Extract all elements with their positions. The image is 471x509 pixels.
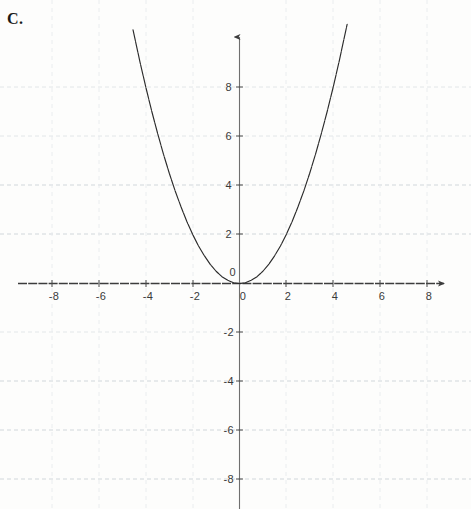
y-tick-label: -2 (224, 326, 234, 338)
x-tick-label: -2 (190, 290, 200, 302)
y-tick-label: -4 (224, 375, 234, 387)
y-tick-label: 4 (226, 179, 232, 191)
parabola-graph (0, 0, 471, 509)
x-tick-label: 4 (332, 290, 338, 302)
y-tick-label: -8 (224, 473, 234, 485)
x-tick-label: -6 (96, 290, 106, 302)
y-tick-label: 8 (226, 81, 232, 93)
y-tick-label: 2 (226, 228, 232, 240)
y-tick-label: 6 (226, 130, 232, 142)
x-tick-label: -8 (49, 290, 59, 302)
x-tick-label-origin: 0 (240, 290, 246, 302)
x-tick-label: -4 (143, 290, 153, 302)
x-tick-label: 6 (379, 290, 385, 302)
y-tick-label-origin: 0 (230, 266, 236, 278)
x-tick-label: 2 (285, 290, 291, 302)
x-tick-label: 8 (426, 290, 432, 302)
parabola-curve (133, 24, 347, 283)
y-tick-label: -6 (224, 424, 234, 436)
